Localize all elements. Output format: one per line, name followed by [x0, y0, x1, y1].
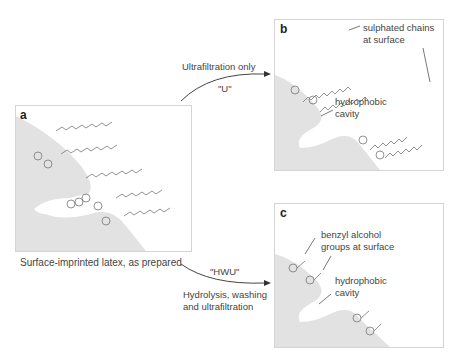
benzyl-label-2: groups at surface — [321, 241, 394, 253]
panel-b-illustration — [275, 20, 443, 170]
lower-arrow-label-2: and ultrafiltration — [183, 301, 253, 313]
panel-b: b sulphated chains at surface hydrophobi… — [274, 19, 444, 171]
lower-arrow-code: "HWU" — [210, 266, 239, 278]
panel-c: c benzyl alcohol groups at surface hydro… — [274, 203, 444, 348]
cavity-label-2: cavity — [335, 108, 359, 120]
upper-arrow-code: "U" — [218, 83, 232, 95]
sulphated-label-2: at surface — [363, 34, 405, 46]
lower-arrow-label-1: Hydrolysis, washing — [183, 289, 267, 301]
sulphated-label-1: sulphated chains — [363, 22, 434, 34]
cavity-label-1: hydrophobic — [335, 275, 387, 287]
panel-c-label: c — [280, 206, 287, 220]
cavity-label-1: hydrophobic — [335, 96, 387, 108]
panel-b-label: b — [280, 22, 287, 36]
benzyl-label-1: benzyl alcohol — [321, 229, 381, 241]
upper-arrow-label: Ultrafiltration only — [182, 61, 255, 73]
cavity-label-2: cavity — [335, 287, 359, 299]
